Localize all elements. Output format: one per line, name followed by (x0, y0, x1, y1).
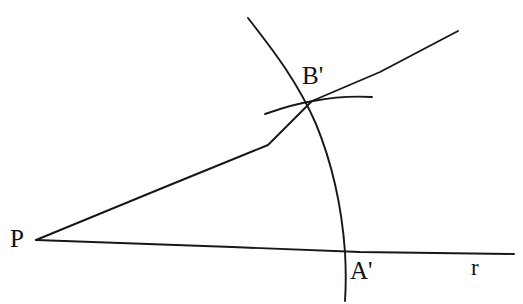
ray-r (36, 240, 514, 254)
figure-canvas (0, 0, 523, 304)
arc-major (248, 18, 346, 301)
geometry-figure: P B' A' r (0, 0, 523, 304)
label-point-b-prime: B' (302, 63, 323, 88)
ray-upper (36, 31, 458, 240)
label-ray-r: r (471, 256, 479, 279)
arc-minor (265, 97, 372, 114)
label-point-a-prime: A' (350, 258, 373, 283)
label-vertex-p: P (10, 226, 24, 251)
